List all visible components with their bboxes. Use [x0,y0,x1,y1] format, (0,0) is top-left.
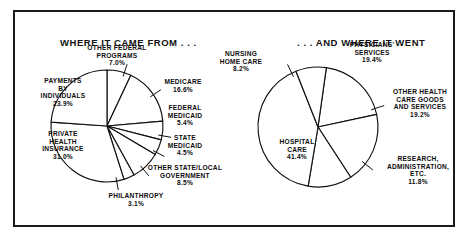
label-nursing-home-care: NURSING HOME CARE 8.2% [211,50,271,73]
label-other-health-care-goods-and-services: OTHER HEALTH CARE GOODS AND SERVICES 19.… [386,88,454,118]
figure-frame: WHERE IT CAME FROM . . . . . . AND WHERE… [13,10,455,227]
label-physicians-services: PHYSICIANS' SERVICES 19.4% [339,41,405,64]
label-research-administration-etc: RESEARCH, ADMINISTRATION, ETC. 11.8% [381,155,455,185]
label-hospital-care: HOSPITAL CARE 41.4% [268,138,326,161]
